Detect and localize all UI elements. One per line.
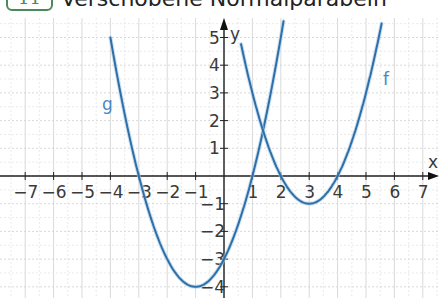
curve-label-g: g [102, 94, 113, 114]
x-tick-label: −2 [155, 182, 180, 202]
x-tick-label: −5 [70, 182, 95, 202]
x-tick-label: 6 [389, 182, 400, 202]
x-tick-label: 5 [361, 182, 372, 202]
x-tick-label: 3 [304, 182, 315, 202]
y-tick-label: 3 [209, 83, 220, 103]
coordinate-plot: xy −7−6−5−4−3−2−11234567−4−3−2−112345 gf [0, 0, 439, 298]
y-axis-label: y [230, 24, 240, 44]
x-tick-label: −7 [13, 182, 38, 202]
y-tick-label: −2 [200, 221, 225, 241]
x-axis-label: x [428, 152, 438, 172]
x-tick-label: −4 [98, 182, 123, 202]
y-tick-label: 2 [209, 111, 220, 131]
y-tick-label: 1 [209, 138, 220, 158]
y-tick-label: 5 [209, 28, 220, 48]
x-tick-label: 7 [418, 182, 429, 202]
curve-g [110, 21, 283, 287]
y-tick-label: 4 [209, 55, 220, 75]
parabola-curves: gf [102, 21, 390, 287]
curve-label-f: f [383, 69, 390, 89]
y-tick-label: −1 [200, 194, 225, 214]
x-tick-label: −6 [42, 182, 67, 202]
